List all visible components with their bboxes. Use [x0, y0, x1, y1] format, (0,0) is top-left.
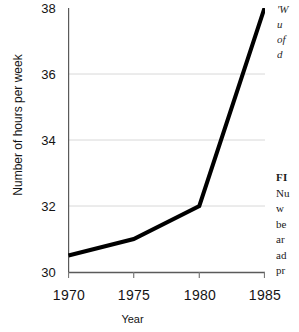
margin-quote-text: 'W u of d: [277, 2, 299, 62]
y-tick-label-30: 30: [22, 266, 56, 279]
figure-caption-line-5: ad: [276, 248, 299, 264]
y-tick-label-38: 38: [22, 2, 56, 15]
figure-caption-line-3: be: [276, 217, 299, 233]
x-tick-label-1975: 1975: [104, 288, 164, 302]
chart-canvas: [68, 8, 265, 278]
figure-caption: FI Nu w be ar ad pr: [276, 170, 299, 279]
figure-caption-title: FI: [276, 170, 299, 186]
x-tick-label-1980: 1980: [170, 288, 230, 302]
figure-caption-line-1: Nu: [276, 186, 299, 202]
margin-quote-line-3: of: [277, 32, 299, 47]
x-axis-title: Year: [0, 313, 265, 325]
y-tick-label-36: 36: [22, 68, 56, 81]
x-tick-label-1970: 1970: [39, 288, 99, 302]
figure-line-chart: 38 36 34 32 30 1970 1975 1980 1985 Year …: [0, 0, 299, 332]
y-tick-label-34: 34: [22, 134, 56, 147]
margin-quote-line-4: d: [277, 47, 299, 62]
y-tick-label-32: 32: [22, 200, 56, 213]
figure-caption-line-6: pr: [276, 263, 299, 279]
figure-caption-line-2: w: [276, 201, 299, 217]
x-tick-label-1985: 1985: [235, 288, 295, 302]
y-tick-label-group: 38 36 34 32 30: [22, 0, 56, 332]
plot-area: [68, 8, 265, 272]
data-line-series-1: [69, 8, 265, 256]
margin-quote-line-1: 'W: [277, 2, 299, 17]
margin-quote-line-2: u: [277, 17, 299, 32]
y-axis-title: Number of hours per week: [11, 15, 25, 235]
figure-caption-line-4: ar: [276, 232, 299, 248]
